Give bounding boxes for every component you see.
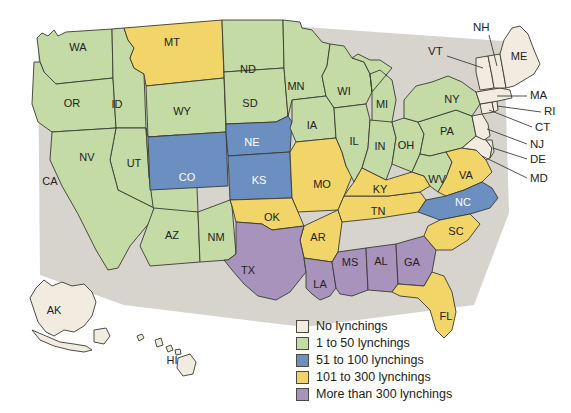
state-MS[interactable] bbox=[332, 248, 368, 296]
legend-item-low[interactable]: 1 to 50 lynchings bbox=[296, 335, 468, 352]
legend-label-mid: 51 to 100 lynchings bbox=[316, 354, 424, 367]
state-label-HI: HI bbox=[167, 354, 178, 366]
legend-swatch-low bbox=[296, 337, 309, 350]
legend-item-none[interactable]: No lynchings bbox=[296, 318, 468, 335]
callout-label-NH: NH bbox=[473, 21, 490, 33]
legend-swatch-none bbox=[296, 320, 309, 333]
legend-item-mid[interactable]: 51 to 100 lynchings bbox=[296, 352, 468, 369]
hawaii-islands[interactable] bbox=[137, 334, 196, 376]
us-lynchings-map: WA OR ID MT WY ND SD MN WI NV UT CA CO N… bbox=[0, 0, 571, 413]
legend-label-low: 1 to 50 lynchings bbox=[316, 337, 410, 350]
callout-label-CT: CT bbox=[535, 121, 550, 133]
legend-item-high[interactable]: 101 to 300 lynchings bbox=[296, 369, 468, 386]
legend-swatch-very-high bbox=[296, 388, 309, 401]
state-IA[interactable] bbox=[290, 96, 336, 142]
state-CO[interactable] bbox=[148, 132, 228, 190]
map-legend: No lynchings 1 to 50 lynchings 51 to 100… bbox=[296, 318, 468, 403]
state-WY[interactable] bbox=[146, 78, 226, 137]
state-ME[interactable] bbox=[500, 26, 540, 88]
legend-label-very-high: More than 300 lynchings bbox=[316, 388, 452, 401]
callout-label-DE: DE bbox=[530, 153, 546, 165]
callout-label-MA: MA bbox=[530, 89, 548, 101]
callout-label-MD: MD bbox=[530, 172, 548, 184]
callout-label-NJ: NJ bbox=[530, 138, 544, 150]
legend-label-none: No lynchings bbox=[316, 320, 388, 333]
state-AL[interactable] bbox=[366, 244, 398, 292]
map-svg: WA OR ID MT WY ND SD MN WI NV UT CA CO N… bbox=[0, 0, 571, 413]
state-WA[interactable] bbox=[37, 29, 113, 84]
legend-swatch-mid bbox=[296, 354, 309, 367]
legend-item-very-high[interactable]: More than 300 lynchings bbox=[296, 386, 468, 403]
legend-swatch-high bbox=[296, 371, 309, 384]
callout-label-RI: RI bbox=[544, 105, 556, 117]
state-SD[interactable] bbox=[224, 68, 288, 124]
state-KS[interactable] bbox=[228, 152, 292, 200]
legend-label-high: 101 to 300 lynchings bbox=[316, 371, 431, 384]
state-ND[interactable] bbox=[222, 20, 284, 72]
